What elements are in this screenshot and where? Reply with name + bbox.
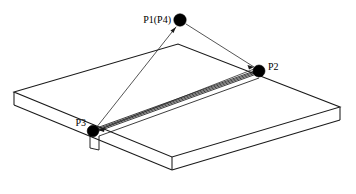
plate-diagram-svg: P1(P4) P2 P3 xyxy=(0,0,356,194)
point-label-p2: P2 xyxy=(268,61,279,72)
plate-body xyxy=(14,44,340,170)
point-label-p3: P3 xyxy=(75,117,86,128)
point-dot-p3[interactable] xyxy=(87,125,99,137)
arrowhead-at-p1 xyxy=(171,27,177,33)
figure-root: P1(P4) P2 P3 xyxy=(0,0,356,194)
point-dot-p2[interactable] xyxy=(253,65,265,77)
point-label-p1: P1(P4) xyxy=(143,14,171,26)
point-dot-p1[interactable] xyxy=(174,14,186,26)
notch-bottom-connector xyxy=(90,148,99,150)
arrowhead-at-p2 xyxy=(248,65,255,70)
